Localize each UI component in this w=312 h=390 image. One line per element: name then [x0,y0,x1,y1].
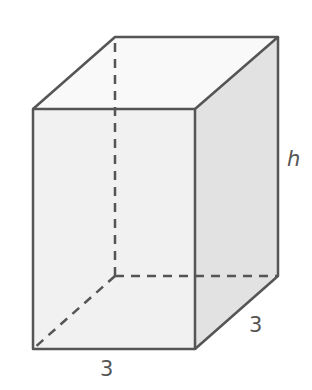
depth-label: 3 [249,313,262,337]
rectangular-prism-diagram: h 3 3 [0,0,312,390]
width-label: 3 [100,357,113,381]
height-label: h [287,147,300,171]
